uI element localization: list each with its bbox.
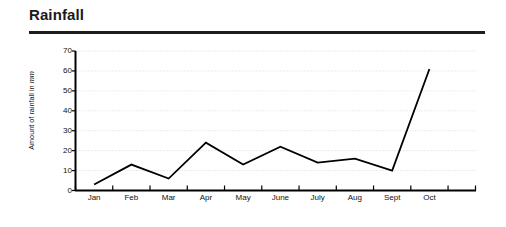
x-axis-tick-label: May bbox=[225, 193, 262, 202]
rainfall-chart-page: Rainfall Amount of rainfall in mm 706050… bbox=[0, 0, 506, 227]
x-axis-tick-label: Apr bbox=[187, 193, 224, 202]
axes bbox=[75, 51, 476, 191]
x-axis-tick-label: Sept bbox=[374, 193, 411, 202]
x-axis-tick-label: Feb bbox=[113, 193, 150, 202]
x-axis-tick-label: Oct bbox=[411, 193, 448, 202]
x-axis-tick-label: July bbox=[299, 193, 336, 202]
x-axis-tick-label: Jan bbox=[76, 193, 113, 202]
title-divider bbox=[29, 31, 485, 34]
page-title: Rainfall bbox=[29, 6, 84, 23]
x-axis-tick-label: Aug bbox=[336, 193, 373, 202]
chart-area: Amount of rainfall in mm 706050403020100… bbox=[0, 40, 506, 220]
x-axis-tick-label: Mar bbox=[150, 193, 187, 202]
x-axis-tick-label: June bbox=[262, 193, 299, 202]
rainfall-line-series bbox=[94, 69, 429, 185]
gridlines bbox=[77, 51, 477, 171]
